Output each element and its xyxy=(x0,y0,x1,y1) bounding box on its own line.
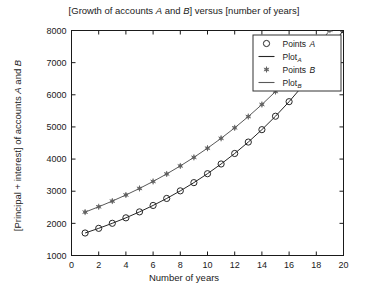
x-tick-label: 6 xyxy=(151,260,156,270)
data-point-marker xyxy=(341,10,346,13)
x-tick-label: 2 xyxy=(96,260,101,270)
legend-label-series: B xyxy=(298,82,302,89)
y-tick-label: 3000 xyxy=(46,186,66,196)
x-tick-label: 8 xyxy=(178,260,183,270)
y-tick-label: 4000 xyxy=(46,154,66,164)
y-tick-label: 8000 xyxy=(46,26,66,36)
x-tick-label: 4 xyxy=(123,260,128,270)
x-tick-label: 12 xyxy=(230,260,240,270)
y-tick-label: 7000 xyxy=(46,58,66,68)
legend-label-series: A xyxy=(309,39,316,49)
x-tick-label: 16 xyxy=(284,260,294,270)
legend[interactable]: Points APlot APoints BPlot B xyxy=(253,35,341,91)
legend-label-series: B xyxy=(310,65,316,75)
x-tick-label: 20 xyxy=(338,260,348,270)
plot-area: 10002000300040005000600070008000 0246810… xyxy=(0,0,368,298)
y-tick-label: 6000 xyxy=(46,90,66,100)
x-tick-label: 0 xyxy=(69,260,74,270)
x-tick-labels: 02468101214161820 xyxy=(69,260,349,270)
legend-label-series: A xyxy=(297,56,302,63)
x-tick-label: 18 xyxy=(311,260,321,270)
y-tick-label: 1000 xyxy=(46,251,66,261)
data-point-marker xyxy=(341,10,346,13)
legend-label[interactable]: Plot B xyxy=(283,78,302,89)
legend-label[interactable]: Points A xyxy=(283,39,316,49)
y-tick-label: 2000 xyxy=(46,219,66,229)
legend-label[interactable]: Plot A xyxy=(283,52,302,63)
x-tick-label: 14 xyxy=(257,260,267,270)
data-point-marker-core xyxy=(342,10,345,13)
chart-figure: [Growth of accounts A and B] versus [num… xyxy=(0,0,368,298)
y-tick-labels: 10002000300040005000600070008000 xyxy=(46,26,66,261)
legend-label[interactable]: Points B xyxy=(283,65,316,75)
x-tick-label: 10 xyxy=(202,260,212,270)
y-tick-label: 5000 xyxy=(46,122,66,132)
